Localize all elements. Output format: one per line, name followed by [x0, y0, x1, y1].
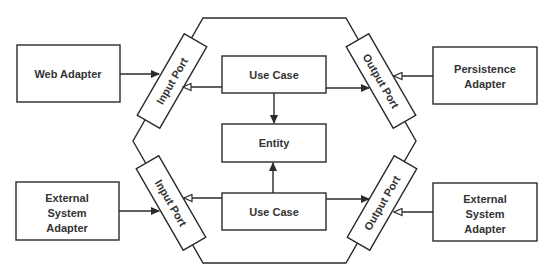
output-port-top: Output Port — [346, 34, 416, 128]
persistence-adapter-label-1: Persistence — [454, 63, 516, 75]
input-port-top: Input Port — [137, 34, 207, 128]
external-right-label-3: Adapter — [464, 223, 506, 235]
external-left-label-1: External — [45, 192, 88, 204]
use-case-bottom-label: Use Case — [249, 206, 299, 218]
entity-box: Entity — [222, 124, 326, 162]
web-adapter-box: Web Adapter — [17, 45, 120, 102]
output-port-bottom: Output Port — [347, 156, 417, 250]
entity-label: Entity — [259, 137, 290, 149]
use-case-bottom-box: Use Case — [222, 193, 326, 230]
use-case-top-box: Use Case — [222, 56, 326, 93]
persistence-adapter-label-2: Adapter — [464, 78, 506, 90]
web-adapter-label: Web Adapter — [34, 68, 102, 80]
external-left-label-3: Adapter — [46, 222, 88, 234]
input-port-bottom: Input Port — [136, 156, 206, 250]
persistence-adapter-box: Persistence Adapter — [433, 47, 537, 104]
external-right-label-1: External — [463, 193, 506, 205]
hexagonal-architecture-diagram: Use Case Entity Use Case Input Port Outp… — [0, 0, 554, 277]
external-system-adapter-left-box: External System Adapter — [16, 182, 119, 240]
external-right-label-2: System — [465, 208, 504, 220]
external-left-label-2: System — [47, 207, 86, 219]
use-case-top-label: Use Case — [249, 69, 299, 81]
external-system-adapter-right-box: External System Adapter — [433, 183, 537, 241]
